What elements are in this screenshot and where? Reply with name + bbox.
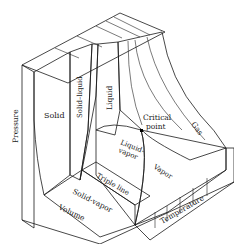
critical-label-2: point xyxy=(146,122,166,131)
triple-line-label: Triple line xyxy=(95,172,131,197)
critical-point-marker xyxy=(140,129,143,132)
gas-label: Gas xyxy=(189,120,205,137)
solid-label: Solid xyxy=(44,111,65,120)
vapor-label: Vapor xyxy=(151,162,174,181)
gas-region xyxy=(118,32,226,160)
critical-label-1: Critical xyxy=(143,113,172,122)
solid-liquid-label: Solid–liquid xyxy=(76,76,84,118)
solid-region xyxy=(34,52,70,195)
volume-axis-line xyxy=(22,220,100,244)
temperature-axis-label: Temperature xyxy=(159,193,207,226)
liquid-label: Liquid xyxy=(105,86,114,110)
pressure-axis-label: Pressure xyxy=(11,109,20,143)
volume-axis-label: Volume xyxy=(56,202,87,223)
front-slab xyxy=(135,148,234,240)
pvt-surface-diagram: Solid Solid–liquid Liquid Critical point… xyxy=(0,0,234,244)
